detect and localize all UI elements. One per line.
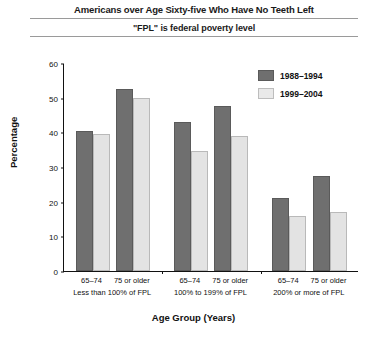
bar [93,134,110,271]
x-category-label: 65–74 [81,276,102,285]
legend-item: 1999–2004 [258,86,323,101]
legend-label: 1988–1994 [280,71,323,81]
bar [191,151,208,271]
y-tick-mark [61,272,64,273]
x-group-label: 100% to 199% of FPL [174,288,247,297]
title-block: Americans over Age Sixty-five Who Have N… [30,4,358,19]
bar [174,122,191,271]
x-category-label: 65–74 [278,276,299,285]
legend-item: 1988–1994 [258,68,323,83]
x-category-label: 65–74 [179,276,200,285]
subtitle-block: "FPL" is federal poverty level [30,22,358,37]
bar [289,216,306,271]
x-tick-mark [261,271,262,274]
bar [330,212,347,271]
bar [231,136,248,271]
x-category-label: 75 or older [114,276,150,285]
x-axis-label: Age Group (Years) [0,312,387,323]
legend-swatch [258,88,274,99]
bar [76,131,93,271]
x-group-label: 200% or more of FPL [273,288,344,297]
bar [116,89,133,271]
chart-legend: 1988–19941999–2004 [258,68,323,104]
subtitle-divider [30,36,358,37]
legend-swatch [258,70,274,81]
bar [272,198,289,271]
bar [133,98,150,271]
x-category-label: 75 or older [311,276,347,285]
bar [214,106,231,271]
bar [313,176,330,271]
legend-label: 1999–2004 [280,89,323,99]
chart-figure: Americans over Age Sixty-five Who Have N… [0,0,387,337]
chart-title: Americans over Age Sixty-five Who Have N… [30,4,358,16]
x-group-label: Less than 100% of FPL [73,288,151,297]
x-tick-mark [162,271,163,274]
chart-subtitle: "FPL" is federal poverty level [30,22,358,34]
title-divider [30,18,358,19]
y-axis-label: Percentage [8,117,19,168]
x-category-label: 75 or older [212,276,248,285]
